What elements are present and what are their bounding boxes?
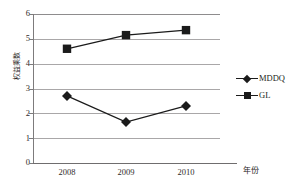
legend-entry-mddq[interactable]: MDDQ (236, 70, 296, 87)
y-tick-label: 3 (14, 84, 30, 93)
legend-entry-gl[interactable]: GL (236, 87, 296, 104)
y-tick-label: 6 (14, 9, 30, 18)
y-tick-label: 0 (14, 158, 30, 167)
legend-swatch-square-icon (236, 90, 258, 102)
gridline-2 (34, 113, 220, 114)
x-tick-label: 2010 (166, 167, 206, 177)
line-chart: 权益乘数 6 5 4 3 2 1 0 2008 2009 2010 年份 (0, 0, 296, 190)
gridline-6 (34, 14, 220, 15)
y-tick-label: 5 (14, 34, 30, 43)
legend-label: MDDQ (259, 74, 285, 83)
gridline-4 (34, 64, 220, 65)
x-axis-title: 年份 (243, 166, 259, 176)
gridline-1 (34, 138, 220, 139)
legend-label: GL (259, 91, 270, 100)
x-tick-label: 2008 (47, 167, 87, 177)
y-tick-label: 4 (14, 59, 30, 68)
y-axis-tick-labels: 6 5 4 3 2 1 0 (14, 0, 30, 190)
gridline-3 (34, 89, 220, 90)
gridline-5 (34, 39, 220, 40)
plot-area (34, 14, 220, 163)
y-tick-label: 2 (14, 109, 30, 118)
legend-swatch-diamond-icon (236, 73, 258, 85)
chart-legend: MDDQ GL (236, 70, 296, 104)
x-tick-label: 2009 (106, 167, 146, 177)
y-tick-label: 1 (14, 134, 30, 143)
x-axis-line (33, 163, 237, 164)
